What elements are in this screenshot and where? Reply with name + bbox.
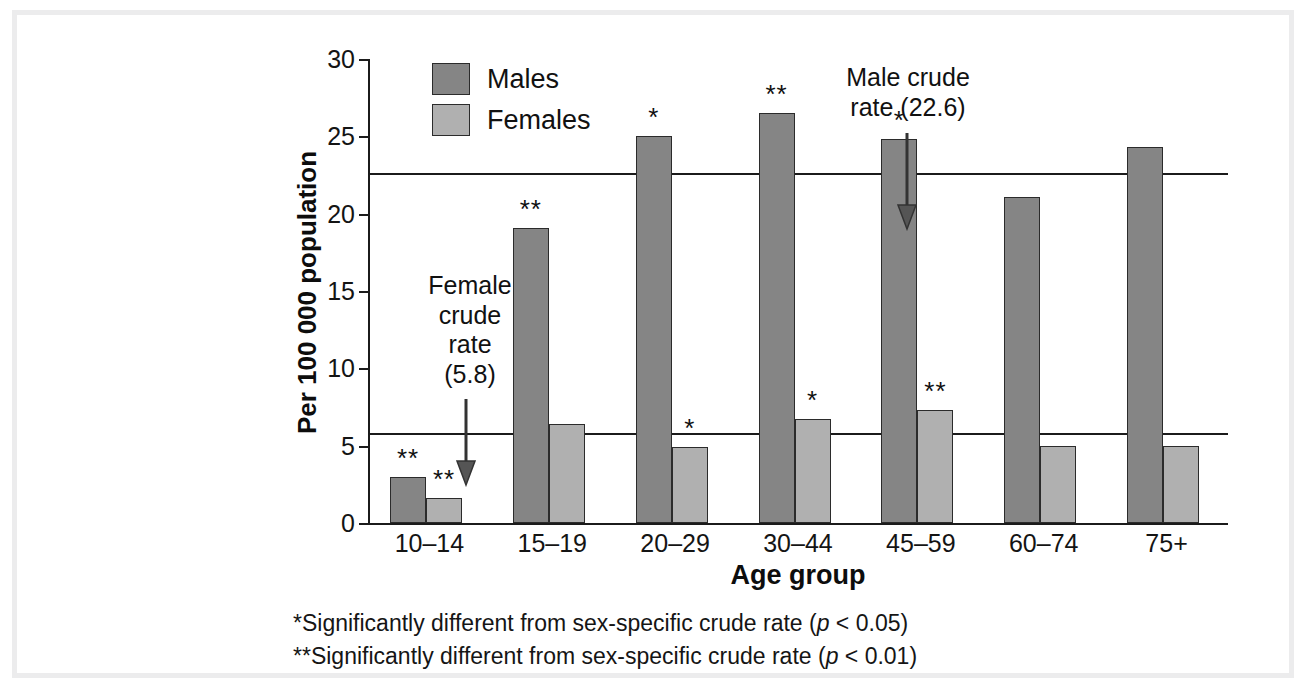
x-tick-label-2029: 20–29 xyxy=(614,531,737,556)
footnote-p01: **Significantly different from sex-speci… xyxy=(293,640,917,673)
bar-females-75 xyxy=(1163,446,1199,523)
significance-mark: * xyxy=(648,104,659,130)
footnote-p05-prefix: *Significantly different from sex-specif… xyxy=(293,610,817,636)
female-crude-rate-arrow-icon xyxy=(454,399,478,487)
figure-inner: Per 100 000 population 051015202530 10–1… xyxy=(17,15,1289,673)
y-tick-label: 0 xyxy=(341,511,355,536)
y-tick-mark xyxy=(359,368,368,370)
y-tick-mark xyxy=(359,291,368,293)
male-crude-rate-arrow-icon xyxy=(895,133,919,231)
y-tick-mark xyxy=(359,523,368,525)
bar-females-1014 xyxy=(426,498,462,523)
bar-females-6074 xyxy=(1040,446,1076,523)
bar-males-6074 xyxy=(1004,197,1040,523)
plot-area: 051015202530 10–14****15–19**20–29**30–4… xyxy=(368,59,1228,525)
figure-frame: Per 100 000 population 051015202530 10–1… xyxy=(12,10,1294,678)
significance-mark: ** xyxy=(397,445,419,471)
y-tick-mark xyxy=(359,136,368,138)
significance-mark: ** xyxy=(520,196,542,222)
bar-group-6074 xyxy=(1004,59,1076,523)
legend-swatch-females-icon xyxy=(432,104,470,136)
bar-females-1519 xyxy=(549,424,585,523)
bar-group-75 xyxy=(1127,59,1199,523)
bar-group-2029: ** xyxy=(636,59,708,523)
bar-females-2029 xyxy=(672,447,708,523)
bar-males-75 xyxy=(1127,147,1163,523)
x-tick-label-1014: 10–14 xyxy=(368,531,491,556)
bar-males-1014 xyxy=(390,477,426,523)
legend-item-males: Males xyxy=(432,63,591,95)
significance-mark: ** xyxy=(924,378,946,404)
bar-group-3044: *** xyxy=(759,59,831,523)
legend-label-males: Males xyxy=(487,66,559,93)
y-tick-label: 5 xyxy=(341,433,355,458)
x-tick-label-1519: 15–19 xyxy=(491,531,614,556)
y-tick-label: 30 xyxy=(327,47,355,72)
bar-males-2029 xyxy=(636,136,672,523)
x-tick-label-6074: 60–74 xyxy=(982,531,1105,556)
y-tick-mark xyxy=(359,59,368,61)
chart-legend: Males Females xyxy=(432,63,591,145)
y-tick-label: 25 xyxy=(327,124,355,149)
x-tick-label-3044: 30–44 xyxy=(737,531,860,556)
y-axis-title: Per 100 000 population xyxy=(288,59,328,525)
bar-females-4559 xyxy=(917,410,953,523)
significance-mark: ** xyxy=(765,81,787,107)
legend-swatch-males-icon xyxy=(432,63,470,95)
legend-item-females: Females xyxy=(432,104,591,136)
bar-group-4559: *** xyxy=(881,59,953,523)
y-tick-label: 20 xyxy=(327,201,355,226)
x-axis-line xyxy=(368,523,1228,525)
female-crude-rate-annotation: Female crude rate (5.8) xyxy=(390,271,550,389)
male-crude-rate-annotation: Male crude rate (22.6) xyxy=(793,63,1023,122)
significance-mark: ** xyxy=(433,466,455,492)
y-axis-title-text: Per 100 000 population xyxy=(293,150,324,433)
x-axis-title: Age group xyxy=(368,560,1228,591)
footnote-p01-italic: p xyxy=(826,643,839,669)
x-tick-label-75: 75+ xyxy=(1105,531,1228,556)
y-tick-mark xyxy=(359,446,368,448)
footnote-p05-italic: p xyxy=(817,610,830,636)
y-axis-line xyxy=(368,59,370,525)
bar-males-3044 xyxy=(759,113,795,523)
significance-mark: * xyxy=(807,387,818,413)
y-tick-label: 15 xyxy=(327,279,355,304)
legend-label-females: Females xyxy=(487,107,591,134)
chart-footnotes: *Significantly different from sex-specif… xyxy=(293,607,917,672)
footnote-p01-suffix: < 0.01) xyxy=(838,643,917,669)
footnote-p05-suffix: < 0.05) xyxy=(829,610,908,636)
bar-females-3044 xyxy=(795,419,831,523)
footnote-p01-prefix: **Significantly different from sex-speci… xyxy=(293,643,826,669)
y-tick-mark xyxy=(359,214,368,216)
footnote-p05: *Significantly different from sex-specif… xyxy=(293,607,917,640)
y-tick-label: 10 xyxy=(327,356,355,381)
significance-mark: * xyxy=(684,415,695,441)
x-tick-label-4559: 45–59 xyxy=(859,531,982,556)
